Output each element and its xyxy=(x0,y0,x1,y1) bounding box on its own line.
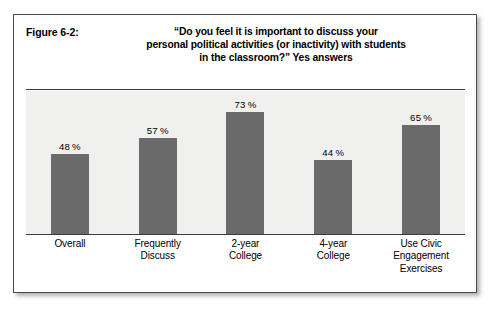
bar-rect xyxy=(51,154,89,234)
category-label-frequently-discuss: FrequentlyDiscuss xyxy=(114,238,202,263)
category-label-line: 2-year xyxy=(202,238,290,250)
title-divider-rule xyxy=(26,89,465,90)
bar-group-use-civic-engagement-exercises: 65 % xyxy=(377,91,465,234)
figure-title-block: Figure 6-2: “Do you feel it is important… xyxy=(14,23,476,83)
bar-rect xyxy=(314,160,352,234)
category-label-line: College xyxy=(202,250,290,262)
x-axis-category-labels: Overall FrequentlyDiscuss 2-yearCollege … xyxy=(26,238,465,275)
bar-rect xyxy=(139,138,177,234)
bar-series: 48 % 57 % 73 % 44 % 65 % xyxy=(26,91,465,234)
category-label-line: Frequently xyxy=(114,238,202,250)
category-label-line: Exercises xyxy=(377,263,465,275)
bar-value-label: 57 % xyxy=(147,125,169,136)
figure-title-text: “Do you feel it is important to discuss … xyxy=(86,25,466,65)
category-label-use-civic-engagement-exercises: Use CivicEngagementExercises xyxy=(377,238,465,275)
bar-value-label: 73 % xyxy=(235,99,257,110)
bar-value-label: 48 % xyxy=(59,141,81,152)
bar-group-4-year-college: 44 % xyxy=(289,91,377,234)
category-label-2-year-college: 2-yearCollege xyxy=(202,238,290,263)
chart-plot-area: 48 % 57 % 73 % 44 % 65 % xyxy=(26,91,465,234)
bar-value-label: 65 % xyxy=(410,112,432,123)
bar-value-label: 44 % xyxy=(322,147,344,158)
figure-title-line-3: in the classroom?” Yes answers xyxy=(86,51,466,64)
category-label-line: College xyxy=(289,250,377,262)
bar-rect xyxy=(226,112,264,234)
figure-title-line-2: personal political activities (or inacti… xyxy=(86,38,466,51)
category-label-overall: Overall xyxy=(26,238,114,250)
figure-container: Figure 6-2: “Do you feel it is important… xyxy=(13,14,477,293)
figure-title-line-1: “Do you feel it is important to discuss … xyxy=(86,25,466,38)
x-axis-baseline xyxy=(26,234,465,235)
category-label-line: 4-year xyxy=(289,238,377,250)
category-label-line: Use Civic xyxy=(377,238,465,250)
category-label-4-year-college: 4-yearCollege xyxy=(289,238,377,263)
category-label-line: Engagement xyxy=(377,250,465,262)
bar-rect xyxy=(402,125,440,234)
category-label-line: Overall xyxy=(26,238,114,250)
bar-group-frequently-discuss: 57 % xyxy=(114,91,202,234)
figure-number-label: Figure 6-2: xyxy=(26,26,79,38)
bar-group-overall: 48 % xyxy=(26,91,114,234)
category-label-line: Discuss xyxy=(114,250,202,262)
bar-group-2-year-college: 73 % xyxy=(202,91,290,234)
